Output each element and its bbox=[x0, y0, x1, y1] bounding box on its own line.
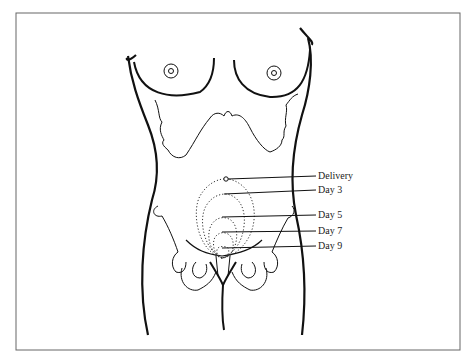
involution-diagram: Delivery Day 3 Day 5 Day 7 Day 9 bbox=[0, 0, 474, 360]
right-areola bbox=[267, 66, 281, 80]
leader-delivery bbox=[228, 176, 316, 179]
label-day-3: Day 3 bbox=[318, 185, 342, 195]
body-illustration bbox=[0, 0, 474, 360]
label-day-9: Day 9 bbox=[318, 241, 342, 251]
label-day-7: Day 7 bbox=[318, 226, 342, 236]
pubic-symphysis bbox=[216, 256, 230, 276]
pelvic-lower-left bbox=[181, 262, 216, 290]
right-nipple bbox=[272, 71, 277, 76]
torso-right-outline bbox=[293, 28, 313, 335]
figure-frame bbox=[16, 13, 460, 350]
iliac-crest-left bbox=[154, 206, 186, 273]
leader-day3 bbox=[224, 190, 316, 194]
pelvic-lower-right bbox=[232, 262, 267, 290]
left-areola bbox=[164, 64, 178, 78]
delivery-marker bbox=[224, 177, 228, 181]
left-breast bbox=[134, 58, 214, 95]
label-day-5: Day 5 bbox=[318, 210, 342, 220]
label-delivery: Delivery bbox=[318, 171, 353, 181]
ribcage-outline bbox=[155, 94, 298, 158]
uterus-day7 bbox=[214, 233, 234, 258]
uterus-delivery bbox=[196, 179, 254, 258]
left-nipple bbox=[169, 69, 174, 74]
leader-day5 bbox=[222, 215, 316, 217]
torso-left-outline bbox=[127, 55, 157, 335]
